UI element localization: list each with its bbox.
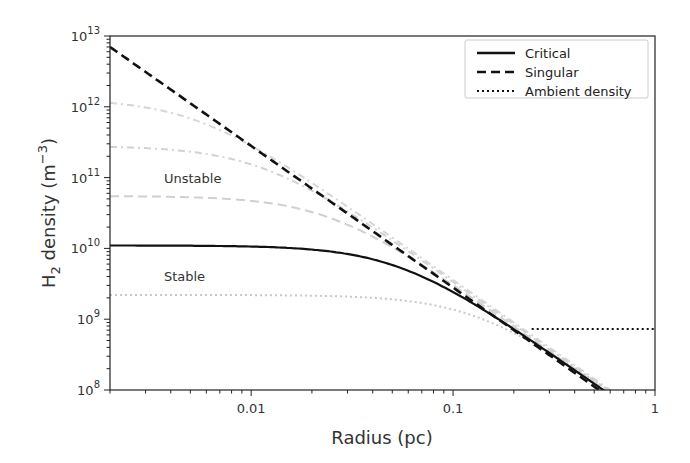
x-tick-label: 0.1 [443,401,464,416]
y-tick-label: 1013 [71,25,100,44]
y-axis-ticks: 1081091010101110121013 [71,25,110,398]
annotation-stable: Stable [164,269,205,284]
x-axis-ticks: 0.010.11 [110,390,659,416]
series-stable [110,295,655,422]
legend-label: Singular [525,65,579,80]
y-tick-label: 1012 [71,96,100,115]
y-tick-label: 1010 [71,237,100,256]
legend-label: Ambient density [525,84,632,99]
legend-label: Critical [525,46,570,61]
series-singular [110,47,655,429]
x-axis-title: Radius (pc) [331,427,432,448]
annotations: UnstableStable [164,171,221,284]
plot-curves [110,47,655,429]
legend: CriticalSingularAmbient density [465,40,648,99]
y-tick-label: 108 [77,379,100,398]
y-axis-title: H2 density (m−3) [35,138,63,288]
annotation-unstable: Unstable [164,171,221,186]
y-tick-label: 1011 [71,167,100,186]
x-tick-label: 0.01 [237,401,266,416]
series-unstable-2 [110,147,655,423]
series-unstable-3 [110,196,655,425]
y-tick-label: 109 [77,308,100,327]
x-tick-label: 1 [651,401,659,416]
chart: 0.010.11 1081091010101110121013 Unstable… [0,0,690,463]
